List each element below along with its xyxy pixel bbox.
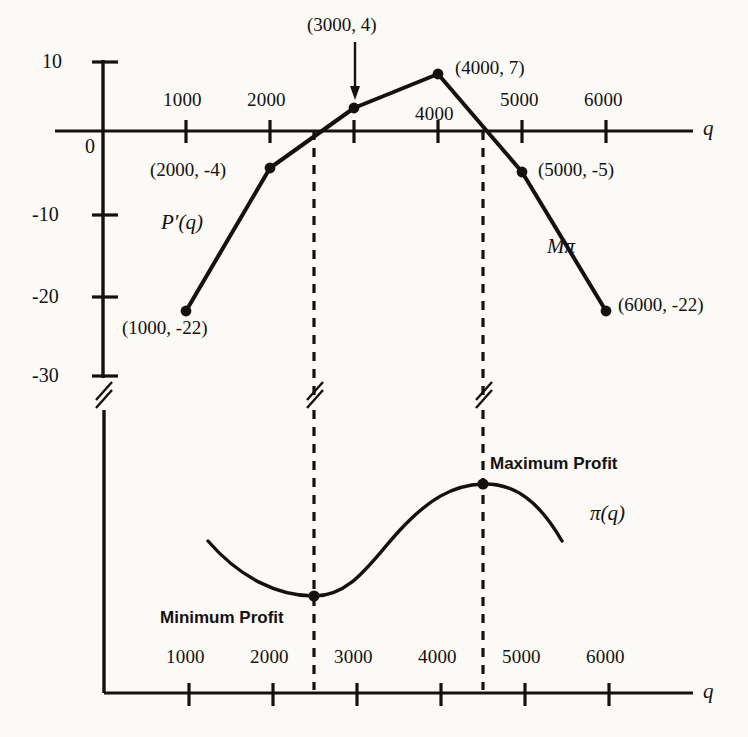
bottom-axis-label-q: q bbox=[703, 681, 714, 702]
top-x-ticklabel-4000: 4000 bbox=[415, 104, 454, 123]
point-label-4000-7: (4000, 7) bbox=[455, 58, 525, 77]
top-axis-label-q: q bbox=[703, 118, 714, 139]
top-x-ticklabel-5000: 5000 bbox=[500, 90, 539, 109]
minimum-profit-label: Minimum Profit bbox=[160, 609, 284, 626]
point-label-5000-m5: (5000, -5) bbox=[538, 160, 614, 179]
point-label-2000-m4: (2000, -4) bbox=[150, 160, 226, 179]
data-point-4000 bbox=[433, 69, 444, 80]
data-point-5000 bbox=[517, 167, 528, 178]
top-y-ticklabel-minus30: -30 bbox=[32, 365, 59, 385]
top-x-ticklabel-2000: 2000 bbox=[247, 90, 286, 109]
figure-container: 10 0 -10 -20 -30 1000 2000 4000 5000 600… bbox=[0, 0, 748, 737]
top-x-ticklabel-6000: 6000 bbox=[584, 90, 623, 109]
callout-arrow-3000 bbox=[350, 42, 360, 100]
bottom-x-ticklabel-1000: 1000 bbox=[166, 647, 205, 666]
point-label-6000-m22: (6000, -22) bbox=[618, 295, 703, 314]
top-y-ticklabel-0: 0 bbox=[85, 136, 95, 156]
profit-curve bbox=[208, 484, 562, 596]
data-point-2000 bbox=[265, 163, 276, 174]
axis-break-marks bbox=[96, 382, 492, 408]
top-y-ticklabel-minus10: -10 bbox=[32, 204, 59, 224]
curve-label-pi-q: π(q) bbox=[590, 503, 625, 524]
chart-drawing-layer bbox=[0, 0, 748, 737]
point-label-1000-m22: (1000, -22) bbox=[122, 318, 207, 337]
marginal-profit-data-points bbox=[181, 69, 612, 317]
bottom-x-ticklabel-3000: 3000 bbox=[334, 647, 373, 666]
top-x-ticklabel-1000: 1000 bbox=[163, 90, 202, 109]
curve-label-p-prime: P′(q) bbox=[161, 212, 203, 233]
curve-label-m-pi: Mπ bbox=[547, 236, 575, 257]
bottom-x-ticklabel-4000: 4000 bbox=[418, 647, 457, 666]
top-y-ticklabel-minus20: -20 bbox=[32, 286, 59, 306]
callout-label-3000-4: (3000, 4) bbox=[307, 15, 377, 34]
top-y-ticklabel-10: 10 bbox=[42, 51, 62, 71]
maximum-profit-label: Maximum Profit bbox=[490, 455, 618, 472]
data-point-6000 bbox=[601, 306, 612, 317]
bottom-x-ticklabel-2000: 2000 bbox=[250, 647, 289, 666]
bottom-x-ticklabel-5000: 5000 bbox=[502, 647, 541, 666]
data-point-1000 bbox=[181, 306, 192, 317]
bottom-x-ticklabel-6000: 6000 bbox=[586, 647, 625, 666]
data-point-3000 bbox=[349, 103, 360, 114]
